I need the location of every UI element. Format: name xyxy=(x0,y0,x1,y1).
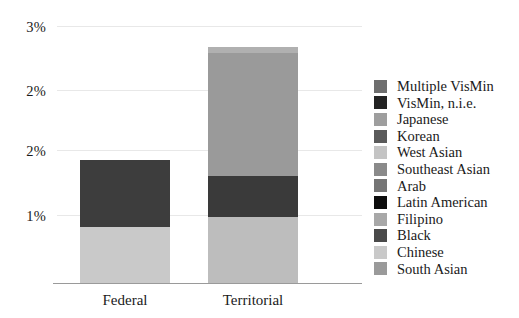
legend-swatch-icon xyxy=(374,213,387,226)
legend-item-label: Korean xyxy=(397,129,440,144)
bar-territorial[interactable] xyxy=(208,18,298,283)
legend-item-southeast-asian[interactable]: Southeast Asian xyxy=(374,161,494,178)
legend-item-label: Multiple VisMin xyxy=(397,79,494,94)
bar-chart: 3% 2% 2% 1% Federal Territorial xyxy=(0,0,519,318)
legend-swatch-icon xyxy=(374,130,387,143)
legend-item-label: Chinese xyxy=(397,245,444,260)
legend-item-label: Arab xyxy=(397,179,426,194)
x-tick-label-territorial: Territorial xyxy=(183,293,323,308)
legend-item-arab[interactable]: Arab xyxy=(374,178,494,195)
legend-item-filipino[interactable]: Filipino xyxy=(374,211,494,228)
x-axis-baseline xyxy=(53,283,362,284)
legend-item-label: South Asian xyxy=(397,262,468,277)
legend-swatch-icon xyxy=(374,179,387,192)
legend-item-korean[interactable]: Korean xyxy=(374,128,494,145)
legend-swatch-icon xyxy=(374,262,387,275)
legend-item-west-asian[interactable]: West Asian xyxy=(374,144,494,161)
y-tick-label-0: 3% xyxy=(0,20,46,35)
legend-swatch-icon xyxy=(374,229,387,242)
legend-item-label: Southeast Asian xyxy=(397,162,490,177)
legend-item-vismin-nie[interactable]: VisMin, n.i.e. xyxy=(374,95,494,112)
bar-segment-territorial-chinese xyxy=(208,217,298,283)
legend-swatch-icon xyxy=(374,196,387,209)
x-tick-label-federal: Federal xyxy=(55,293,195,308)
bar-segment-territorial-filipino xyxy=(208,53,298,176)
legend-item-multiple-vismin[interactable]: Multiple VisMin xyxy=(374,78,494,95)
y-tick-label-1: 2% xyxy=(0,84,46,99)
bar-federal[interactable] xyxy=(80,18,170,283)
legend-swatch-icon xyxy=(374,80,387,93)
legend-swatch-icon xyxy=(374,246,387,259)
legend-item-black[interactable]: Black xyxy=(374,227,494,244)
y-tick-label-3: 1% xyxy=(0,209,46,224)
legend-item-label: Black xyxy=(397,228,431,243)
bar-segment-federal-black xyxy=(80,160,170,227)
legend-swatch-icon xyxy=(374,146,387,159)
legend-item-label: Filipino xyxy=(397,212,443,227)
legend-item-label: VisMin, n.i.e. xyxy=(397,96,476,111)
legend-swatch-icon xyxy=(374,113,387,126)
plot-area xyxy=(57,18,362,284)
legend-item-label: Japanese xyxy=(397,112,449,127)
legend-item-label: West Asian xyxy=(397,145,462,160)
legend-item-label: Latin American xyxy=(397,195,488,210)
legend-item-latin-american[interactable]: Latin American xyxy=(374,194,494,211)
legend: Multiple VisMin VisMin, n.i.e. Japanese … xyxy=(374,78,494,277)
legend-swatch-icon xyxy=(374,96,387,109)
y-tick-label-2: 2% xyxy=(0,144,46,159)
legend-swatch-icon xyxy=(374,163,387,176)
legend-item-south-asian[interactable]: South Asian xyxy=(374,261,494,278)
bar-segment-territorial-black xyxy=(208,176,298,217)
legend-item-japanese[interactable]: Japanese xyxy=(374,111,494,128)
legend-item-chinese[interactable]: Chinese xyxy=(374,244,494,261)
bar-segment-federal-chinese xyxy=(80,227,170,283)
